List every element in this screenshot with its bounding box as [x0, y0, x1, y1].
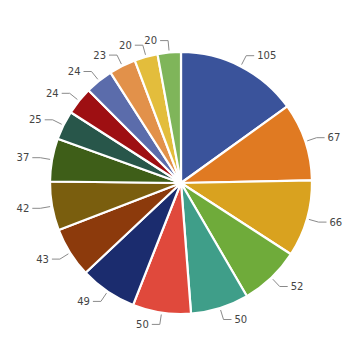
leader-line: [62, 93, 78, 99]
data-label: 67: [328, 132, 341, 143]
data-label: 105: [257, 50, 276, 61]
leader-line: [152, 315, 162, 325]
data-label: 37: [17, 152, 30, 163]
leader-line: [109, 55, 121, 64]
data-label: 25: [29, 114, 42, 125]
data-label: 52: [291, 281, 304, 292]
data-label: 24: [46, 88, 59, 99]
leader-line: [52, 254, 69, 259]
data-label: 66: [330, 217, 343, 228]
pie-slices: [50, 52, 312, 314]
data-label: 50: [136, 319, 149, 330]
leader-line: [307, 138, 324, 141]
data-label: 49: [77, 296, 90, 307]
leader-line: [32, 207, 50, 209]
leader-line: [93, 293, 107, 301]
leader-line: [45, 120, 62, 125]
leader-line: [32, 158, 50, 160]
data-label: 20: [119, 40, 132, 51]
leader-line: [242, 56, 255, 65]
pie-chart: 105676652505049434237252424232020: [0, 0, 364, 346]
leader-line: [84, 72, 98, 80]
leader-line: [160, 41, 169, 51]
data-label: 20: [144, 35, 157, 46]
data-label: 42: [17, 203, 30, 214]
data-label: 50: [235, 314, 248, 325]
data-label: 43: [36, 254, 49, 265]
leader-line: [221, 310, 232, 320]
leader-line: [309, 219, 327, 222]
data-label: 24: [68, 66, 81, 77]
leader-line: [135, 45, 146, 55]
data-label: 23: [93, 50, 106, 61]
leader-line: [273, 279, 288, 286]
